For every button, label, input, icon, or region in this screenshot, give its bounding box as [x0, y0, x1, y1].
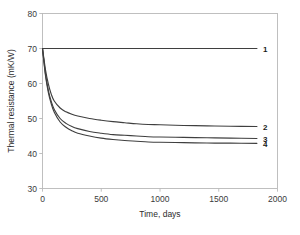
series-label-4: 4 [263, 140, 268, 149]
y-axis-tick-label: 60 [28, 79, 38, 89]
x-axis-tick-label: 2000 [268, 194, 287, 204]
chart-container: 3040506070800500100015002000Time, daysTh… [0, 0, 300, 235]
y-axis-tick-label: 40 [28, 149, 38, 159]
series-label-1: 1 [263, 45, 268, 54]
series-label-2: 2 [263, 123, 268, 132]
series-curve-4 [43, 49, 257, 144]
x-axis-tick-label: 1000 [151, 194, 170, 204]
x-axis-title: Time, days [139, 209, 180, 219]
x-axis-tick-label: 1500 [209, 194, 228, 204]
y-axis-tick-label: 30 [28, 184, 38, 194]
series-curve-2 [43, 49, 257, 127]
y-axis-tick-label: 80 [28, 9, 38, 19]
thermal-resistance-line-chart: 3040506070800500100015002000Time, daysTh… [0, 0, 300, 235]
x-axis-tick-label: 0 [40, 194, 45, 204]
plot-frame [43, 14, 278, 189]
x-axis-tick-label: 500 [94, 194, 108, 204]
y-axis-tick-label: 70 [28, 44, 38, 54]
y-axis-title: Thermal resistance (mK/W) [6, 49, 16, 153]
y-axis-tick-label: 50 [28, 114, 38, 124]
